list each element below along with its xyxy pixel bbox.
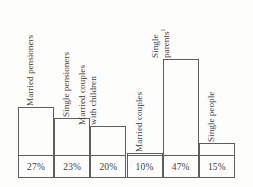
- bar-single-pensioners: 23%: [54, 118, 90, 177]
- bar-single-parents: 47%: [163, 59, 199, 177]
- bar-label-line2: parents1: [161, 28, 172, 58]
- bar-value-single-people: 15%: [200, 155, 234, 177]
- bar-label-married-couples: Married couples: [134, 92, 145, 152]
- bar-column-single-parents: 47% Single parents1: [163, 4, 199, 177]
- bar-value-married-couples-with-children: 20%: [91, 155, 125, 177]
- bar-label-line2: with children: [88, 65, 99, 125]
- bar-label-line2-text: parents: [161, 31, 171, 58]
- baseline-axis: [18, 177, 235, 178]
- bar-label-line1: Married pensioners: [25, 35, 36, 106]
- bar-label-single-parents: Single parents1: [150, 28, 172, 58]
- bar-label-line1: Single pensioners: [61, 52, 72, 117]
- bar-value-single-pensioners: 23%: [55, 155, 89, 177]
- bar-married-couples: 10%: [127, 153, 163, 177]
- bar-label-line1: Single people: [206, 92, 217, 142]
- bar-label-single-pensioners: Single pensioners: [61, 52, 72, 117]
- bar-value-married-couples: 10%: [128, 155, 162, 177]
- bar-label-line1: Married couples: [77, 65, 88, 125]
- bar-label-single-people: Single people: [206, 92, 217, 142]
- bar-column-married-couples-with-children: 20% Married couples with children: [90, 4, 126, 177]
- bar-label-line1: Single: [150, 28, 161, 58]
- plot-area: 27% Married pensioners 23% Single pensio…: [18, 4, 235, 177]
- bar-value-married-pensioners: 27%: [19, 155, 53, 177]
- bar-label-married-couples-with-children: Married couples with children: [77, 65, 99, 125]
- footnote-marker: 1: [160, 28, 166, 31]
- bar-column-married-pensioners: 27% Married pensioners: [18, 4, 54, 177]
- bar-married-couples-with-children: 20%: [90, 126, 126, 177]
- bar-single-people: 15%: [199, 143, 235, 177]
- bar-chart: 27% Married pensioners 23% Single pensio…: [0, 0, 253, 187]
- bar-label-line1: Married couples: [134, 92, 145, 152]
- bar-column-single-people: 15% Single people: [199, 4, 235, 177]
- bar-label-married-pensioners: Married pensioners: [25, 35, 36, 106]
- bar-value-single-parents: 47%: [164, 155, 198, 177]
- bar-married-pensioners: 27%: [18, 107, 54, 177]
